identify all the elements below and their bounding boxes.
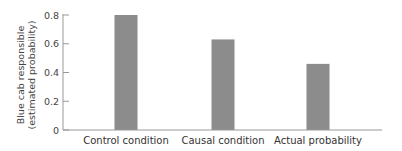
x-category-label: Actual probability [274, 135, 362, 146]
y-tick-label: 0.8 [44, 10, 59, 21]
bar [307, 64, 330, 130]
y-tick-label: 0.4 [44, 67, 59, 78]
y-tick-label: 0 [53, 125, 59, 136]
x-category-label: Control condition [83, 135, 169, 146]
bar [212, 39, 235, 130]
x-category-label: Causal condition [182, 135, 265, 146]
bar-chart: Blue cab responsible(estimated probabili… [0, 0, 402, 151]
y-axis-label: Blue cab responsible(estimated probabili… [15, 21, 37, 130]
y-tick-label: 0.6 [44, 38, 59, 49]
y-tick-label: 0.2 [44, 96, 59, 107]
y-axis-label-line: (estimated probability) [26, 21, 37, 130]
y-axis-ticks: 00.20.40.60.8 [44, 10, 69, 136]
bar [115, 15, 138, 130]
x-axis-labels: Control conditionCausal conditionActual … [83, 135, 362, 146]
y-axis-label-line: Blue cab responsible [15, 26, 26, 125]
bars [115, 15, 330, 130]
